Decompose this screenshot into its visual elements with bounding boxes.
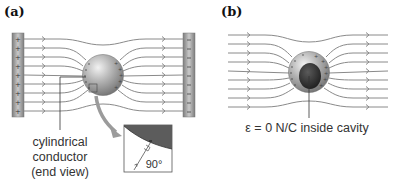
negative-plate [183, 33, 195, 117]
svg-text:+: + [15, 108, 21, 116]
svg-text:+: + [15, 72, 21, 80]
svg-text:+: + [323, 76, 327, 82]
svg-text:+: + [15, 81, 21, 89]
inset-zoom-view: 90° [124, 125, 172, 172]
plus-charge-icons: + + + + + + + + + [15, 36, 21, 116]
cavity [299, 63, 321, 89]
caption-leader-line [60, 77, 86, 130]
svg-text:+: + [15, 63, 21, 71]
cavity-caption: ε = 0 N/C inside cavity [245, 121, 369, 135]
svg-text:+: + [114, 84, 118, 90]
svg-text:(end view): (end view) [31, 165, 89, 179]
svg-text:+: + [118, 78, 122, 84]
panel-a-label: (a) [4, 4, 25, 19]
positive-plate: + + + + + + + + + [12, 33, 24, 117]
callout-arrow [96, 96, 122, 138]
electric-field-diagram: (a) + + + + + + + + + [0, 0, 397, 183]
svg-text:+: + [314, 53, 318, 59]
panel-a: (a) + + + + + + + + + [4, 4, 195, 179]
cylindrical-conductor: + + + + + [83, 55, 124, 96]
svg-text:cylindrical: cylindrical [33, 135, 88, 149]
svg-text:+: + [15, 45, 21, 53]
svg-text:+: + [15, 54, 21, 62]
svg-text:+: + [319, 82, 323, 88]
conductor-caption: cylindrical conductor (end view) [31, 135, 89, 179]
svg-text:conductor: conductor [33, 150, 88, 164]
svg-text:+: + [15, 36, 21, 44]
svg-text:+: + [15, 99, 21, 107]
right-angle-label: 90° [146, 158, 163, 170]
panel-b: (b) [221, 4, 388, 135]
svg-text:+: + [15, 90, 21, 98]
panel-b-label: (b) [221, 4, 242, 19]
